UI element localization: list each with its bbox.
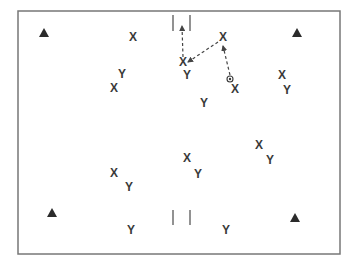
field-boundary bbox=[18, 11, 340, 254]
player-y-marker: Y bbox=[283, 84, 291, 96]
player-x-marker: X bbox=[110, 167, 118, 179]
goals bbox=[173, 15, 190, 225]
pass-arrow bbox=[223, 46, 230, 75]
player-x-marker: X bbox=[278, 69, 286, 81]
player-y-marker: Y bbox=[194, 168, 202, 180]
player-y-marker: Y bbox=[266, 154, 274, 166]
player-y-marker: Y bbox=[200, 97, 208, 109]
player-x-marker: X bbox=[255, 139, 263, 151]
player-y-marker: Y bbox=[222, 224, 230, 236]
cone-icon bbox=[292, 28, 302, 37]
cone-icon bbox=[39, 28, 49, 37]
player-y-marker: Y bbox=[183, 69, 191, 81]
player-y-marker: Y bbox=[118, 68, 126, 80]
cone-icon bbox=[47, 208, 57, 217]
diagram-canvas bbox=[0, 0, 350, 264]
pass-arrow bbox=[188, 42, 218, 62]
player-y-marker: Y bbox=[127, 224, 135, 236]
cone-icon bbox=[290, 213, 300, 222]
player-x-marker: X bbox=[219, 31, 227, 43]
player-x-marker: X bbox=[179, 56, 187, 68]
player-x-marker: X bbox=[129, 31, 137, 43]
player-y-marker: Y bbox=[125, 181, 133, 193]
player-x-marker: X bbox=[231, 83, 239, 95]
player-x-marker: X bbox=[183, 152, 191, 164]
player-x-marker: X bbox=[110, 82, 118, 94]
pass-arrow bbox=[182, 26, 183, 57]
cones bbox=[39, 28, 302, 222]
